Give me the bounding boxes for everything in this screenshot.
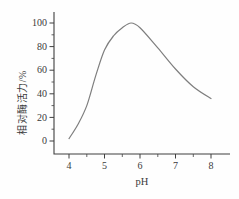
x-tick-label: 7 bbox=[173, 160, 178, 171]
ph-activity-chart: 02040608010045678 相对酶活力/% pH bbox=[0, 0, 239, 199]
x-axis-label: pH bbox=[54, 176, 230, 187]
y-tick-label: 0 bbox=[42, 135, 47, 146]
y-tick-label: 100 bbox=[32, 17, 47, 28]
y-axis-label: 相对酶活力/% bbox=[14, 57, 27, 149]
y-tick-label: 20 bbox=[37, 112, 47, 123]
axes-lines bbox=[54, 12, 230, 154]
x-tick-label: 5 bbox=[102, 160, 107, 171]
x-tick-label: 4 bbox=[67, 160, 72, 171]
x-tick-label: 8 bbox=[209, 160, 214, 171]
activity-curve bbox=[69, 23, 211, 139]
y-tick-label: 40 bbox=[37, 88, 47, 99]
chart-svg: 02040608010045678 bbox=[0, 0, 239, 199]
x-tick-label: 6 bbox=[138, 160, 143, 171]
y-tick-label: 80 bbox=[37, 41, 47, 52]
y-tick-label: 60 bbox=[37, 64, 47, 75]
